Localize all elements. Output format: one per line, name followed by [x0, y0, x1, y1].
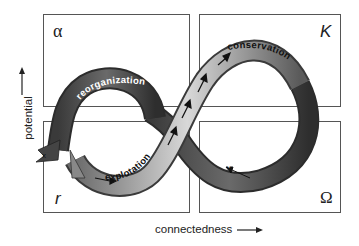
exit-marker: x [42, 151, 46, 160]
y-axis-label: potential [22, 78, 34, 158]
adaptive-cycle-loop: reorganization conservation explotation … [0, 0, 359, 246]
release-label: release [225, 149, 262, 170]
x-axis-label: connectedness [155, 223, 232, 235]
